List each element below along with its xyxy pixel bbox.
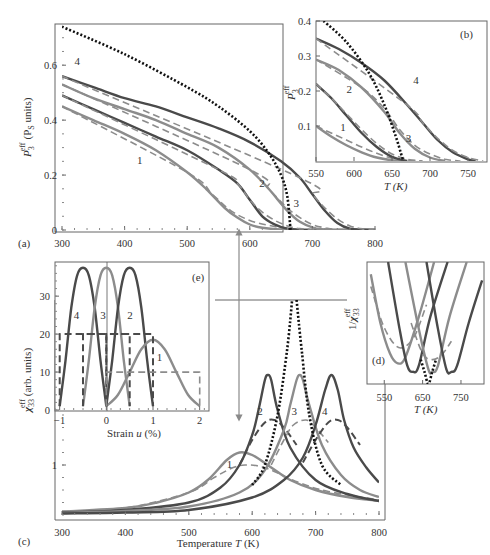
y-tick-label: 0 bbox=[45, 405, 50, 416]
x-tick-label: 300 bbox=[54, 527, 70, 538]
curve-label: 4 bbox=[322, 405, 328, 417]
panel-d-label: (d) bbox=[372, 354, 385, 367]
panel-b-x-axis-title: T (K) bbox=[384, 180, 408, 193]
curve-label: 1 bbox=[157, 351, 163, 363]
curve-label: 2 bbox=[259, 177, 265, 189]
panel-c-x-axis-title: Temperature T (K) bbox=[177, 537, 260, 550]
x-tick-label: 800 bbox=[371, 527, 387, 538]
curve-label: 3 bbox=[292, 405, 298, 417]
x-tick-label: 550 bbox=[308, 168, 324, 179]
x-tick-label: 800 bbox=[367, 238, 383, 249]
curve-label: 4 bbox=[75, 55, 81, 67]
y-tick-label: 10 bbox=[40, 367, 51, 378]
panel-e-label: (e) bbox=[192, 271, 205, 284]
x-tick-label: 700 bbox=[308, 527, 324, 538]
curve-label: 1 bbox=[227, 458, 233, 470]
x-tick-label: 750 bbox=[453, 392, 469, 403]
curve-label: 3 bbox=[406, 132, 412, 144]
y-tick-label: 0.6 bbox=[44, 60, 57, 71]
x-tick-label: 1 bbox=[150, 415, 155, 426]
curve-label: 4 bbox=[413, 74, 419, 86]
x-tick-label: 400 bbox=[118, 527, 134, 538]
y-tick-label: 0.4 bbox=[298, 16, 312, 27]
curve-label: 3 bbox=[100, 309, 106, 321]
y-tick-label: 0.4 bbox=[44, 115, 58, 126]
panel-b-label: (b) bbox=[460, 28, 473, 41]
curve-label: 4 bbox=[74, 309, 80, 321]
panel-b-polarization-zoom-inset: 1234 5506006507007500.10.20.30.4 (b) P3e… bbox=[282, 16, 487, 193]
y-tick-label: 0.3 bbox=[298, 51, 311, 62]
y-tick-label: 0 bbox=[52, 225, 57, 236]
panel-d-x-axis-title: T (K) bbox=[414, 403, 438, 416]
panel-d-y-axis-title: 1/χ33eff bbox=[343, 308, 361, 330]
x-tick-label: 600 bbox=[242, 238, 258, 249]
curve-label: 3 bbox=[294, 197, 300, 209]
panel-c-label: (c) bbox=[18, 535, 31, 548]
panel-b-frame bbox=[316, 21, 487, 162]
curve-label: 2 bbox=[346, 83, 352, 95]
y-tick-label: 0.1 bbox=[298, 121, 311, 132]
panel-a-frame bbox=[55, 24, 283, 232]
curve-label: 2 bbox=[127, 309, 133, 321]
panel-e-strain-inset: 4321 −10120102030 (e) Strain u (%) bbox=[40, 262, 210, 440]
x-tick-label: 550 bbox=[376, 392, 392, 403]
curve-label: 2 bbox=[257, 405, 263, 417]
x-tick-label: −1 bbox=[54, 415, 65, 426]
panel-c-y-axis-title: χ33eff(arb. units) bbox=[18, 348, 36, 414]
panel-a-y-axis-title: P3eff(PS units) bbox=[18, 97, 36, 158]
x-tick-label: 400 bbox=[117, 238, 133, 249]
x-tick-label: 600 bbox=[346, 168, 362, 179]
x-tick-label: 700 bbox=[305, 238, 321, 249]
x-tick-label: 2 bbox=[197, 415, 202, 426]
figure: 4123 30040050060070080000.20.40.6 (a) P3… bbox=[0, 0, 490, 555]
x-tick-label: 0 bbox=[104, 415, 109, 426]
x-tick-label: 750 bbox=[460, 168, 476, 179]
x-tick-label: 700 bbox=[422, 168, 438, 179]
panel-e-frame bbox=[55, 262, 209, 411]
curve-label: 1 bbox=[137, 154, 143, 166]
panel-d-inverse-susceptibility-inset: 550650750 (d) 1/χ33eff T (K) bbox=[343, 262, 484, 416]
curve-label: 1 bbox=[340, 121, 346, 133]
y-tick-label: 0.2 bbox=[44, 170, 57, 181]
panel-e-x-axis-title: Strain u (%) bbox=[107, 427, 161, 440]
y-tick-label: 30 bbox=[40, 291, 51, 302]
x-tick-label: 500 bbox=[179, 238, 195, 249]
panel-a-label: (a) bbox=[18, 237, 31, 250]
x-tick-label: 300 bbox=[54, 238, 70, 249]
x-tick-label: 650 bbox=[415, 392, 431, 403]
y-tick-label: 1 bbox=[52, 460, 57, 471]
x-tick-label: 650 bbox=[384, 168, 400, 179]
y-tick-label: 20 bbox=[40, 329, 51, 340]
